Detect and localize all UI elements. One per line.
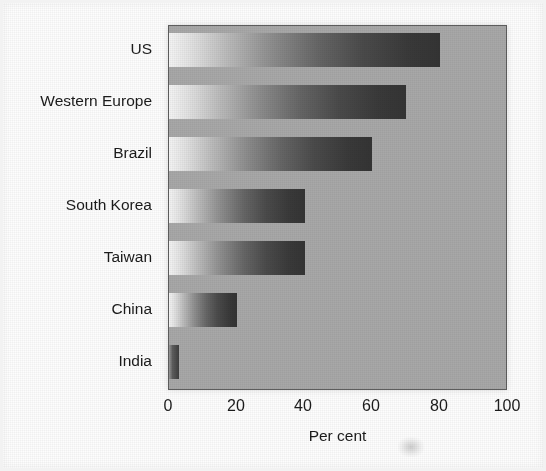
plot-area xyxy=(168,25,507,390)
x-tick-0: 0 xyxy=(164,398,173,414)
bar-row xyxy=(169,345,506,379)
category-label-western-europe: Western Europe xyxy=(40,93,152,109)
category-label-brazil: Brazil xyxy=(113,145,152,161)
bar-india xyxy=(169,345,179,379)
bar-row xyxy=(169,241,506,275)
x-tick-40: 40 xyxy=(294,398,312,414)
bar-row xyxy=(169,137,506,171)
bar-chart-figure: USWestern EuropeBrazilSouth KoreaTaiwanC… xyxy=(0,0,546,471)
bar-south-korea xyxy=(169,189,305,223)
bar-us xyxy=(169,33,440,67)
x-tick-60: 60 xyxy=(362,398,380,414)
x-tick-80: 80 xyxy=(430,398,448,414)
plot-inner xyxy=(169,26,506,389)
bar-row xyxy=(169,293,506,327)
bar-taiwan xyxy=(169,241,305,275)
category-label-us: US xyxy=(130,41,152,57)
x-tick-100: 100 xyxy=(494,398,521,414)
bar-china xyxy=(169,293,237,327)
x-axis-tick-labels: 020406080100 xyxy=(0,398,546,418)
chart-page: USWestern EuropeBrazilSouth KoreaTaiwanC… xyxy=(0,0,546,471)
bar-row xyxy=(169,85,506,119)
bar-western-europe xyxy=(169,85,406,119)
x-axis-title: Per cent xyxy=(168,428,507,444)
category-label-india: India xyxy=(118,353,152,369)
category-label-south-korea: South Korea xyxy=(66,197,152,213)
x-tick-20: 20 xyxy=(227,398,245,414)
bar-brazil xyxy=(169,137,372,171)
bar-row xyxy=(169,33,506,67)
bar-row xyxy=(169,189,506,223)
category-label-taiwan: Taiwan xyxy=(104,249,152,265)
category-label-china: China xyxy=(112,301,153,317)
